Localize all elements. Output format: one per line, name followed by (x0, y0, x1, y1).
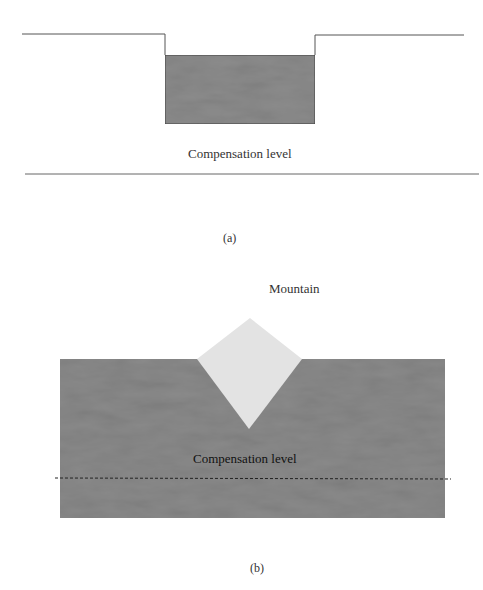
compensation-level-label-a: Compensation level (188, 146, 292, 162)
mountain-label: Mountain (269, 281, 320, 297)
crust-block (165, 55, 315, 124)
surface-profile-line-right (315, 35, 464, 55)
surface-profile-line (22, 34, 165, 55)
figure-label-a: (a) (223, 231, 236, 246)
panel-b (55, 318, 451, 518)
compensation-level-label-b: Compensation level (193, 451, 297, 467)
isostasy-diagram (0, 0, 483, 590)
figure-label-b: (b) (250, 561, 264, 576)
